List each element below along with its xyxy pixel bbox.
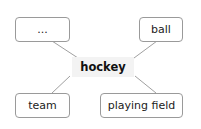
node-ball: ball bbox=[139, 17, 183, 42]
node-label: ... bbox=[37, 23, 48, 36]
node-ellipsis: ... bbox=[15, 17, 70, 42]
node-label: playing field bbox=[108, 99, 176, 112]
connector-bottom-left bbox=[52, 76, 70, 93]
connector-top-left bbox=[52, 41, 78, 58]
node-label: team bbox=[28, 99, 57, 112]
node-team: team bbox=[15, 93, 70, 118]
center-topic: hockey bbox=[72, 57, 134, 77]
connector-bottom-right bbox=[135, 76, 156, 93]
node-label: ball bbox=[151, 23, 171, 36]
node-playing-field: playing field bbox=[100, 93, 183, 118]
connector-top-right bbox=[134, 41, 157, 58]
center-label: hockey bbox=[80, 60, 126, 74]
